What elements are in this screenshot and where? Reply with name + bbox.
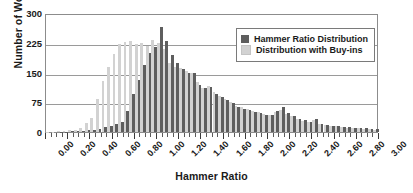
x-minor-tick [228,133,229,137]
x-minor-tick [51,133,52,137]
x-minor-tick [300,133,301,137]
x-minor-tick [62,133,63,137]
legend-label: Distribution with Buy-ins [256,46,363,55]
x-minor-tick [212,133,213,137]
x-minor-tick [323,133,324,137]
legend-item: Distribution with Buy-ins [241,45,368,55]
x-minor-tick [273,133,274,137]
x-minor-tick [145,133,146,137]
x-minor-tick [184,133,185,137]
x-minor-tick [345,133,346,137]
x-tick-label: 0.00 [56,139,75,158]
x-minor-tick [128,133,129,137]
x-minor-tick [189,133,190,137]
x-minor-tick [101,133,102,137]
x-minor-tick [150,133,151,137]
x-minor-tick [117,133,118,137]
x-minor-tick [123,133,124,137]
bar-buy-ins [113,54,116,132]
x-minor-tick [306,133,307,137]
x-minor-tick [206,133,207,137]
x-minor-tick [372,133,373,137]
x-tick-label: 0.20 [78,139,97,158]
x-tick-label: 0.60 [123,139,142,158]
x-tick-label: 0.40 [101,139,120,158]
x-minor-tick [139,133,140,137]
x-minor-tick [84,133,85,137]
y-tick-label: 225 [16,39,42,49]
x-tick-label: 1.60 [234,139,253,158]
x-axis-title: Hammer Ratio [45,170,378,182]
x-tick-label: 2.00 [278,139,297,158]
bar-hammer-ratio [376,129,379,132]
x-minor-tick [234,133,235,137]
x-tick-label: 3.00 [389,139,408,158]
x-tick-label: 2.60 [345,139,364,158]
x-minor-tick [350,133,351,137]
bar-buy-ins [118,44,121,132]
x-minor-tick [95,133,96,137]
x-tick-label: 1.20 [189,139,208,158]
x-tick-label: 1.40 [212,139,231,158]
x-minor-tick [73,133,74,137]
x-minor-tick [295,133,296,137]
x-tick-label: 2.40 [323,139,342,158]
x-minor-tick [250,133,251,137]
x-minor-tick [284,133,285,137]
bar-buy-ins [107,67,110,132]
x-minor-tick [317,133,318,137]
y-tick-label: 150 [16,69,42,79]
x-tick-label: 2.80 [367,139,386,158]
bar-buy-ins [96,99,99,132]
x-axis-tick-labels: 0.000.200.400.600.801.001.201.401.601.80… [45,139,378,169]
x-minor-tick [78,133,79,137]
chart-figure: Number of Works 075150225300 0.000.200.4… [0,0,413,193]
x-minor-tick [56,133,57,137]
x-minor-tick [167,133,168,137]
legend-swatch-icon [241,45,251,55]
y-axis-tick-labels: 075150225300 [14,0,42,193]
x-minor-tick [261,133,262,137]
y-tick-label: 300 [16,9,42,19]
x-minor-tick [195,133,196,137]
legend-swatch-icon [241,35,249,43]
x-tick-label: 1.00 [167,139,186,158]
x-minor-tick [162,133,163,137]
x-tick-label: 0.80 [145,139,164,158]
x-minor-tick [239,133,240,137]
chart-legend: Hammer Ratio DistributionDistribution wi… [236,28,375,62]
x-minor-tick [339,133,340,137]
x-minor-tick [173,133,174,137]
x-minor-tick [217,133,218,137]
x-minor-tick [328,133,329,137]
legend-label: Hammer Ratio Distribution [254,35,368,44]
x-tick-label: 2.20 [300,139,319,158]
x-minor-tick [361,133,362,137]
x-minor-tick [367,133,368,137]
bar-buy-ins [102,81,105,132]
y-tick-label: 0 [16,128,42,138]
x-minor-tick [256,133,257,137]
legend-item: Hammer Ratio Distribution [241,35,368,44]
x-tick-label: 1.80 [256,139,275,158]
y-tick-label: 75 [16,99,42,109]
x-minor-tick [106,133,107,137]
x-minor-tick [278,133,279,137]
